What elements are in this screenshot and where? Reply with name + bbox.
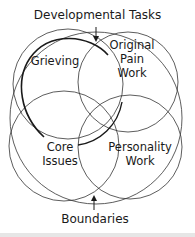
grieving-label: Grieving	[30, 54, 80, 68]
diagram-lines	[0, 0, 195, 237]
original-pain-work-line-1: Original	[104, 38, 160, 52]
four-circle-diagram: Developmental Tasks Grieving Original Pa…	[0, 0, 195, 237]
bottom-divider	[0, 233, 195, 237]
top-arrow-head-icon	[93, 36, 99, 42]
core-issues-line-2: Issues	[40, 154, 80, 168]
original-pain-work-label: Original Pain Work	[104, 38, 160, 80]
bottom-label: Boundaries	[0, 212, 190, 226]
original-pain-work-line-3: Work	[104, 66, 160, 80]
core-issues-line-1: Core	[40, 140, 80, 154]
personality-work-line-2: Work	[108, 154, 172, 168]
top-label: Developmental Tasks	[0, 8, 195, 22]
original-pain-work-line-2: Pain	[104, 52, 160, 66]
personality-work-label: Personality Work	[108, 140, 172, 168]
core-issues-label: Core Issues	[40, 140, 80, 168]
personality-work-line-1: Personality	[108, 140, 172, 154]
bottom-arrow-head-icon	[91, 195, 97, 201]
